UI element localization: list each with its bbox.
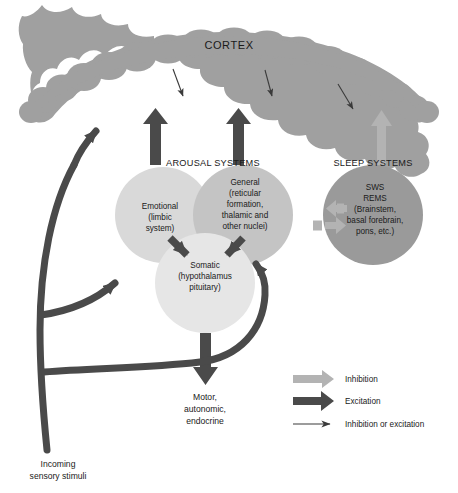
sleep-circle — [323, 165, 423, 265]
arousal-systems-label: AROUSAL SYSTEMS — [166, 158, 260, 168]
legend-inhibition-label: Inhibition — [345, 375, 378, 384]
motor-line-1: Motor, — [193, 392, 217, 402]
sleep-line-5: pons, etc.) — [356, 227, 395, 236]
general-line-1: General — [230, 178, 259, 187]
general-line-4: thalamic and — [222, 211, 269, 220]
legend: Inhibition Excitation Inhibition or exci… — [293, 370, 425, 429]
somatic-line-1: Somatic — [190, 261, 220, 270]
motor-output-label: Motor, autonomic, endocrine — [184, 392, 226, 426]
incoming-line-2: sensory stimuli — [30, 471, 87, 481]
motor-line-3: endocrine — [186, 416, 224, 426]
diagram-canvas: CORTEX AROUSAL SYSTEMS SLEEP SYSTEMS — [0, 0, 458, 493]
emotional-line-1: Emotional — [142, 202, 179, 211]
incoming-stimuli-label: Incoming sensory stimuli — [30, 459, 87, 481]
legend-excitation-label: Excitation — [345, 397, 381, 406]
sleep-line-4: basal forebrain, — [347, 216, 403, 225]
emotional-line-2: (limbic — [148, 213, 172, 222]
sleep-line-3: (Brainstem, — [354, 205, 396, 214]
sleep-to-general-stub — [337, 204, 344, 214]
general-line-5: other nuclei) — [222, 222, 267, 231]
legend-inhibition-arrow-icon — [293, 370, 334, 388]
legend-mixed-label: Inhibition or excitation — [345, 420, 425, 429]
emotional-line-3: system) — [146, 224, 175, 233]
somatic-line-2: (hypothalamus — [178, 272, 232, 281]
incoming-line-1: Incoming — [41, 459, 76, 469]
somatic-line-3: pituitary) — [189, 283, 221, 292]
general-line-3: formation, — [227, 200, 263, 209]
general-line-2: (reticular — [229, 189, 261, 198]
legend-item-inhibition: Inhibition — [293, 370, 378, 388]
sleep-line-1: SWS — [366, 183, 385, 192]
sensory-to-emotional-branch — [41, 283, 115, 315]
legend-item-inhibition-or-excitation: Inhibition or excitation — [293, 420, 425, 429]
arousal-arrow-left — [143, 108, 168, 165]
legend-excitation-arrow-icon — [293, 391, 334, 411]
cortex-label: CORTEX — [204, 39, 253, 51]
general-to-sleep-stub — [313, 221, 322, 231]
sleep-line-2: REMS — [363, 194, 387, 203]
arousal-ascending-arrows — [143, 108, 251, 165]
arousal-arrow-right — [226, 108, 251, 165]
sleep-systems-label: SLEEP SYSTEMS — [333, 158, 412, 168]
legend-item-excitation: Excitation — [293, 391, 381, 411]
sensory-to-cortex-branch — [74, 131, 96, 165]
arousal-sleep-diagram: CORTEX AROUSAL SYSTEMS SLEEP SYSTEMS — [0, 0, 458, 493]
motor-line-2: autonomic, — [184, 404, 226, 414]
cortex-arrow-1 — [173, 69, 183, 96]
